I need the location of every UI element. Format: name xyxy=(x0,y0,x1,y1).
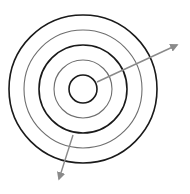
ring-3 xyxy=(39,45,127,133)
concentric-target-diagram xyxy=(0,0,190,194)
arrow-1-icon xyxy=(97,45,177,82)
arrows xyxy=(59,45,177,179)
ring-1 xyxy=(69,75,97,103)
ring-2 xyxy=(54,60,112,118)
concentric-rings xyxy=(9,15,157,163)
ring-5 xyxy=(9,15,157,163)
arrow-2-icon xyxy=(59,135,73,179)
ring-4 xyxy=(24,30,142,148)
